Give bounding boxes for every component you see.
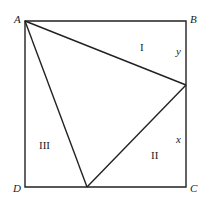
segment-af [25,21,87,187]
segment-label-x: x [175,133,181,145]
vertex-label-b: B [190,13,197,25]
region-label-i: I [140,41,144,53]
segment-ae [25,21,186,85]
segment-ef [87,85,186,187]
segment-label-y: y [175,45,181,57]
region-label-iii: III [39,139,50,151]
vertex-label-c: C [190,182,198,194]
square-abcd [25,21,186,187]
vertex-label-a: A [13,13,21,25]
vertex-label-d: D [12,182,21,194]
region-label-ii: II [151,149,159,161]
square-diagram: A B C D I II III y x [0,0,210,203]
